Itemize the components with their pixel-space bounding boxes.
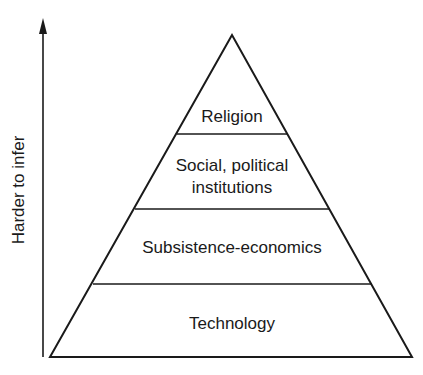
level-social-line2: institutions	[192, 177, 272, 198]
arrow-head-icon	[39, 18, 47, 34]
level-social-line1: Social, political	[176, 155, 288, 176]
level-technology: Technology	[189, 313, 275, 334]
axis-label: Harder to infer	[9, 136, 29, 245]
level-subsistence: Subsistence-economics	[142, 237, 322, 258]
level-religion: Religion	[201, 106, 262, 127]
